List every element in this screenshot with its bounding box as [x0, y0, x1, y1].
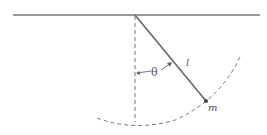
pendulum-rod — [135, 15, 206, 101]
swing-arc-dashed — [97, 57, 240, 126]
angle-label: θ — [151, 66, 158, 79]
mass-label: m — [208, 102, 217, 113]
length-label: l — [186, 57, 189, 68]
angle-arrowhead-left-icon — [136, 71, 140, 75]
pendulum-diagram: θ l m — [0, 0, 267, 135]
angle-arrowhead-right-icon — [167, 62, 172, 67]
